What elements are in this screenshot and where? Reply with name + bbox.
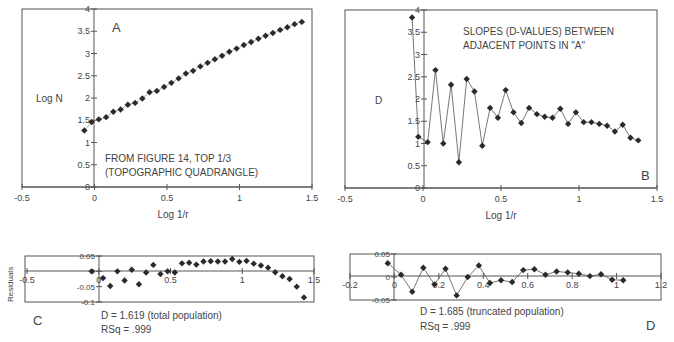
data-point-marker xyxy=(420,265,426,271)
data-points xyxy=(385,260,627,299)
data-point-marker xyxy=(442,266,448,272)
y-tick-label: 0 xyxy=(85,182,90,192)
annotation-line-2: ADJACENT POINTS IN "A" xyxy=(463,40,585,51)
x-tick-label: 1.5 xyxy=(308,275,321,285)
x-tick-label: 1 xyxy=(614,280,619,290)
data-point-marker xyxy=(409,14,415,20)
chart-panel-c: 0.050-0.05-0.1-0.500.511.5 xyxy=(19,252,320,307)
data-point-marker xyxy=(215,258,221,264)
data-point-marker xyxy=(531,266,537,272)
data-point-marker xyxy=(103,114,109,120)
y-tick-label: 2.5 xyxy=(407,72,420,82)
y-tick-label: -0.1 xyxy=(81,298,95,307)
chart-panel-a: 00.511.522.533.54-0.500.511.5Log 1/r xyxy=(14,4,318,220)
data-point-marker xyxy=(233,45,239,51)
figure: 00.511.522.533.54-0.500.511.5Log 1/r00.5… xyxy=(0,0,674,342)
x-tick-label: 0 xyxy=(392,280,397,290)
x-tick-label: -0.2 xyxy=(342,280,358,290)
x-tick-label: 0.8 xyxy=(566,280,579,290)
panel-label-a: A xyxy=(112,20,121,35)
x-axis-title: Log 1/r xyxy=(157,209,189,220)
data-point-marker xyxy=(125,101,131,107)
data-point-marker xyxy=(157,271,163,277)
data-point-marker xyxy=(299,19,305,25)
data-point-marker xyxy=(604,123,610,129)
y-tick-label: 3 xyxy=(85,49,90,59)
data-point-marker xyxy=(107,283,113,289)
data-point-marker xyxy=(518,120,524,126)
data-point-marker xyxy=(553,268,559,274)
y-tick-label: -0.05 xyxy=(372,296,391,305)
y-tick-label: 0.05 xyxy=(374,250,390,259)
x-axis-title: Log 1/r xyxy=(485,210,517,221)
data-point-marker xyxy=(471,88,477,94)
panel-label-c: C xyxy=(33,313,42,328)
data-point-marker xyxy=(277,27,283,33)
data-point-marker xyxy=(212,56,218,62)
annotation-line-2: (TOPOGRAPHIC QUADRANGLE) xyxy=(105,167,258,178)
data-point-marker xyxy=(587,273,593,279)
data-point-marker xyxy=(262,33,268,39)
data-point-marker xyxy=(596,121,602,127)
x-tick-label: 0 xyxy=(96,275,101,285)
data-point-marker xyxy=(453,292,459,298)
data-point-marker xyxy=(510,109,516,115)
data-point-marker xyxy=(204,60,210,66)
data-point-marker xyxy=(222,258,228,264)
y-tick-label: 3 xyxy=(415,50,420,60)
y-tick-label: 0.05 xyxy=(79,252,95,261)
y-tick-label: 3.5 xyxy=(407,27,420,37)
y-axis-title: Residuals xyxy=(6,267,15,302)
y-tick-label: 4 xyxy=(85,4,90,14)
y-tick-label: 4 xyxy=(415,5,420,15)
data-points xyxy=(409,14,642,165)
data-point-marker xyxy=(255,36,261,42)
data-point-marker xyxy=(498,277,504,283)
annotation-line-1: SLOPES (D-VALUES) BETWEEN xyxy=(463,26,614,37)
y-axis-title: D xyxy=(375,95,382,106)
x-tick-label: 0 xyxy=(92,193,97,203)
x-tick-label: 0.5 xyxy=(495,194,508,204)
x-tick-label: 1 xyxy=(576,194,581,204)
caption-line-1: D = 1.619 (total population) xyxy=(101,310,222,321)
data-point-marker xyxy=(270,30,276,36)
y-tick-label: 0 xyxy=(386,273,391,282)
data-point-marker xyxy=(272,269,278,275)
y-tick-label: 1 xyxy=(415,139,420,149)
data-points xyxy=(81,19,305,134)
y-tick-label: 2 xyxy=(415,94,420,104)
y-tick-label: -0.05 xyxy=(77,283,96,292)
data-point-marker xyxy=(588,119,594,125)
data-point-marker xyxy=(456,159,462,165)
data-point-marker xyxy=(114,268,120,274)
chart-panel-b: 00.511.522.533.54-0.500.511.5Log 1/r xyxy=(337,5,663,221)
x-tick-label: 0.4 xyxy=(477,280,490,290)
x-tick-label: 0.6 xyxy=(521,280,534,290)
x-tick-label: 1 xyxy=(237,193,242,203)
data-point-marker xyxy=(301,294,307,300)
data-point-marker xyxy=(258,262,264,268)
data-point-marker xyxy=(479,143,485,149)
y-tick-label: 1.5 xyxy=(77,115,90,125)
x-tick-label: -0.5 xyxy=(337,194,353,204)
y-tick-label: 2 xyxy=(85,93,90,103)
data-point-marker xyxy=(265,264,271,270)
y-tick-label: 1.5 xyxy=(407,116,420,126)
data-points xyxy=(88,256,307,301)
data-point-marker xyxy=(284,24,290,30)
y-tick-label: 1 xyxy=(85,138,90,148)
data-point-marker xyxy=(96,116,102,122)
data-point-marker xyxy=(463,76,469,82)
data-point-marker xyxy=(161,84,167,90)
data-point-marker xyxy=(241,42,247,48)
panel-label-d: D xyxy=(646,318,655,333)
x-tick-label: 0.5 xyxy=(161,193,174,203)
data-point-marker xyxy=(291,21,297,27)
data-point-marker xyxy=(183,70,189,76)
x-tick-label: 0 xyxy=(420,194,425,204)
x-tick-label: 1.5 xyxy=(651,194,664,204)
data-point-marker xyxy=(164,268,170,274)
data-point-marker xyxy=(129,267,135,273)
data-point-marker xyxy=(168,80,174,86)
annotation-line-1: FROM FIGURE 14, TOP 1/3 xyxy=(105,153,232,164)
